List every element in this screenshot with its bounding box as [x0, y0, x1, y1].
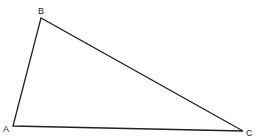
triangle-diagram: A B C [0, 0, 258, 140]
vertex-label-a: A [3, 124, 9, 134]
vertex-label-c: C [246, 128, 253, 138]
triangle-abc [13, 18, 243, 131]
vertex-label-b: B [38, 6, 44, 16]
